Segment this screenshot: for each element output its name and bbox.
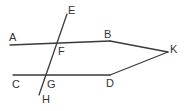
point-label-a: A bbox=[9, 32, 16, 43]
point-label-k: K bbox=[170, 44, 177, 55]
point-label-g: G bbox=[47, 79, 56, 90]
geometry-line-canvas bbox=[0, 0, 184, 111]
point-label-b: B bbox=[104, 29, 111, 40]
point-label-e: E bbox=[68, 5, 75, 16]
segment-dk bbox=[110, 52, 168, 75]
point-label-c: C bbox=[12, 79, 20, 90]
point-label-d: D bbox=[106, 78, 114, 89]
segment-bk bbox=[110, 41, 168, 52]
point-label-f: F bbox=[58, 46, 65, 57]
geometry-diagram: A E B K F C G D H bbox=[0, 0, 184, 111]
point-label-h: H bbox=[42, 94, 50, 105]
